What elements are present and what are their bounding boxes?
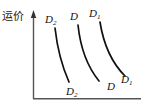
curve-label-subscript: 1	[129, 79, 133, 87]
y-axis-arrow-icon	[31, 10, 36, 18]
curve-label-top-d: D	[70, 11, 78, 24]
demand-curve-d	[78, 25, 99, 81]
curve-label-bottom-d2: D2	[66, 86, 77, 99]
curve-label-subscript: 2	[53, 19, 57, 27]
curve-label-base: D	[45, 13, 53, 25]
curve-label-top-d2: D2	[45, 14, 56, 27]
curve-label-base: D	[89, 7, 97, 19]
curve-label-subscript: 1	[97, 13, 101, 21]
curve-label-base: D	[66, 85, 74, 97]
curve-label-top-d1: D1	[89, 8, 100, 21]
curve-label-base: D	[70, 10, 78, 22]
curve-label-base: D	[121, 73, 129, 85]
curve-label-base: D	[107, 80, 115, 92]
demand-curve-d1	[100, 22, 125, 76]
curve-label-bottom-d1: D1	[121, 74, 132, 87]
demand-curve-figure: 运价 D2 D D1 D2 D D1	[0, 0, 141, 110]
demand-curve-d2	[55, 28, 69, 82]
curve-label-subscript: 2	[74, 91, 78, 99]
y-axis	[31, 10, 36, 99]
curve-label-bottom-d: D	[107, 81, 115, 94]
y-axis-label: 运价	[2, 10, 24, 23]
